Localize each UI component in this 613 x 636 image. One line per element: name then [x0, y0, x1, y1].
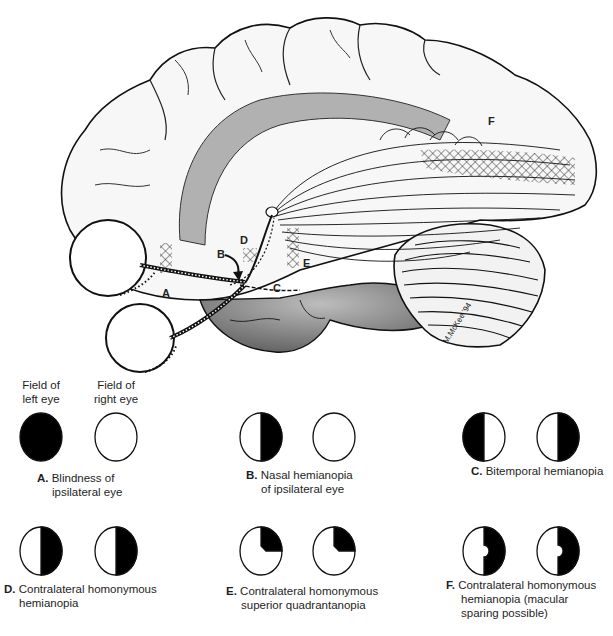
caption-c: C. Bitemporal hemianopia	[471, 464, 603, 478]
caption-f: F. Contralateral homonymous hemianopia (…	[446, 578, 596, 620]
field-e-left-eye	[240, 527, 282, 575]
field-f-left-eye	[463, 527, 505, 575]
field-b-left-eye	[240, 413, 282, 461]
field-e-right-eye	[313, 527, 355, 575]
label-d: D	[240, 234, 248, 246]
label-f: F	[488, 115, 495, 127]
field-b-right-eye	[313, 413, 355, 461]
label-c: C	[273, 282, 281, 294]
label-b: B	[217, 248, 225, 260]
caption-b: B. Nasal hemianopia of ipsilateral eye	[246, 468, 353, 496]
label-e: E	[303, 257, 310, 269]
caption-d: D. Contralateral homonymous hemianopia	[4, 582, 157, 610]
brain-visual-pathway-illustration: A B C D E F M.McKee '94	[0, 0, 613, 380]
field-a-left-eye	[20, 413, 62, 461]
caption-e: E. Contralateral homonymous superior qua…	[226, 584, 378, 612]
lesion-site-e	[287, 228, 299, 268]
field-a-right-eye	[95, 413, 137, 461]
label-a: A	[162, 287, 170, 299]
field-f-right-eye	[537, 527, 579, 575]
lesion-site-a	[160, 243, 172, 273]
field-d-right-eye	[95, 527, 137, 575]
field-c-left-eye	[463, 413, 505, 461]
field-d-left-eye	[20, 527, 62, 575]
lesion-site-d	[243, 248, 257, 262]
caption-a: A. Blindness of ipsilateral eye	[37, 471, 122, 499]
field-c-right-eye	[537, 413, 579, 461]
